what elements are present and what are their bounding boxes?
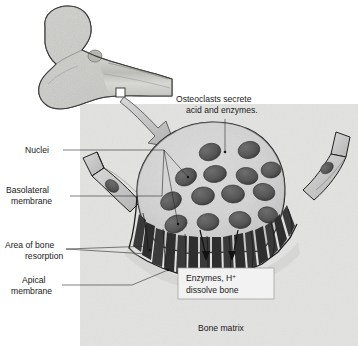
osteoclast-callout-line2: acid and enzymes. [186,105,258,115]
osteoclast-callout-line1: Osteoclasts secrete [176,94,252,104]
apical-line2: membrane [11,286,52,296]
femur-region-marker [116,88,125,97]
label-osteoclast-secretion: Osteoclasts secrete acid and enzymes. [176,94,258,115]
label-area-of-bone-resorption: Area of bone resorption [5,240,63,261]
figure-canvas: Osteoclasts secrete acid and enzymes. Nu… [0,0,358,346]
resorption-line1: Area of bone [5,240,54,250]
resorption-line2: resorption [25,251,63,261]
label-nuclei: Nuclei [25,145,49,155]
femur-bone-inset [39,6,172,109]
osteoclast-diagram: Osteoclasts secrete acid and enzymes. Nu… [0,0,358,346]
label-apical-membrane: Apical membrane [11,275,52,296]
apical-line1: Apical [22,275,45,285]
enzymes-callout-box: Enzymes, H+ dissolve bone [178,268,274,299]
basolateral-line2: membrane [11,196,52,206]
enzymes-text: Enzymes, H [186,273,232,283]
basolateral-line1: Basolateral [6,185,49,195]
hydrogen-superscript: + [232,272,236,279]
enzymes-callout-line1: Enzymes, H+ [186,272,236,283]
label-basolateral-membrane: Basolateral membrane [6,185,52,206]
label-bone-matrix: Bone matrix [198,323,245,333]
enzymes-callout-line2: dissolve bone [186,285,239,295]
